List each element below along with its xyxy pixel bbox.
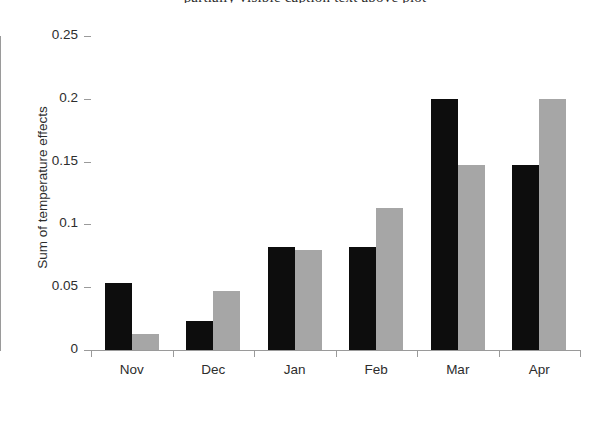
x-tick-mark xyxy=(336,350,337,357)
y-tick-mark xyxy=(84,99,91,100)
bar-feb-series-1 xyxy=(349,247,376,350)
y-tick-label: 0.15 xyxy=(18,153,78,168)
y-tick-label: 0 xyxy=(18,341,78,356)
bar-apr-series-2 xyxy=(539,99,566,350)
x-tick-mark xyxy=(417,350,418,357)
y-tick-mark xyxy=(84,350,91,351)
y-tick-label: 0.2 xyxy=(18,90,78,105)
bar-dec-series-2 xyxy=(213,291,240,350)
bars-layer xyxy=(91,36,580,350)
bar-feb-series-2 xyxy=(376,208,403,350)
x-tick-mark xyxy=(499,350,500,357)
clipped-caption-text: partially visible caption text above plo… xyxy=(0,0,610,3)
y-tick-mark xyxy=(84,224,91,225)
y-tick-label: 0.1 xyxy=(18,215,78,230)
y-tick-label: 0.05 xyxy=(18,278,78,293)
y-tick-label: 0.25 xyxy=(18,27,78,42)
x-tick-label-feb: Feb xyxy=(336,362,416,377)
y-axis-line xyxy=(0,36,1,351)
bar-nov-series-1 xyxy=(105,283,132,350)
x-tick-mark xyxy=(254,350,255,357)
x-tick-mark xyxy=(91,350,92,357)
bar-dec-series-1 xyxy=(186,321,213,350)
bar-mar-series-1 xyxy=(431,99,458,350)
bar-jan-series-1 xyxy=(268,247,295,350)
bar-apr-series-1 xyxy=(512,165,539,350)
x-tick-label-nov: Nov xyxy=(92,362,172,377)
x-tick-label-mar: Mar xyxy=(418,362,498,377)
x-tick-mark xyxy=(580,350,581,357)
y-tick-mark xyxy=(84,36,91,37)
x-tick-label-apr: Apr xyxy=(499,362,579,377)
x-tick-label-dec: Dec xyxy=(173,362,253,377)
bar-chart-figure: partially visible caption text above plo… xyxy=(0,0,610,424)
y-tick-mark xyxy=(84,162,91,163)
x-tick-label-jan: Jan xyxy=(255,362,335,377)
x-tick-mark xyxy=(173,350,174,357)
bar-jan-series-2 xyxy=(295,250,322,350)
bar-mar-series-2 xyxy=(458,165,485,350)
y-tick-mark xyxy=(84,287,91,288)
bar-nov-series-2 xyxy=(132,334,159,350)
